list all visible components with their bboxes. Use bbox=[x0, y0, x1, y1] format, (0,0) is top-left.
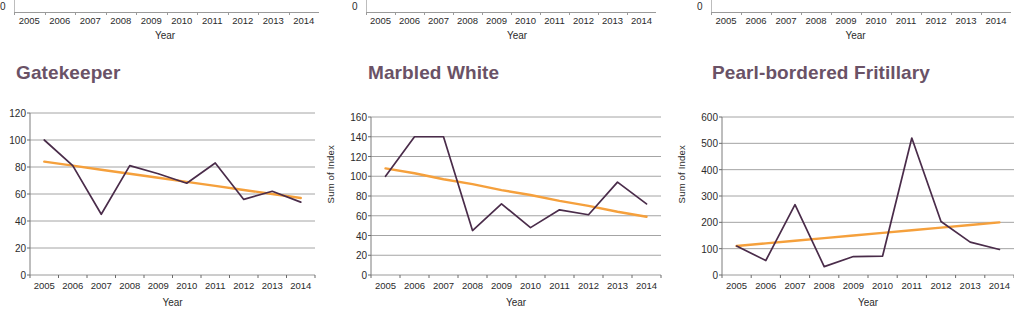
x-axis-tick bbox=[627, 12, 628, 15]
x-axis-tick-label: 2014 bbox=[290, 280, 311, 291]
x-axis-tick-label: 2005 bbox=[19, 15, 40, 26]
x-axis-tick bbox=[771, 12, 772, 15]
x-axis-tick bbox=[598, 12, 599, 15]
data-line bbox=[44, 140, 301, 214]
chart-pearl-bordered-fritillary: Pearl-bordered Fritillary Sum of Index Y… bbox=[690, 62, 1014, 322]
x-axis-tick bbox=[228, 12, 229, 15]
x-axis-tick-label: 2010 bbox=[872, 280, 893, 291]
y-axis-tick-label: 20 bbox=[0, 243, 26, 254]
x-axis-tick-label: 2010 bbox=[520, 280, 541, 291]
x-axis-tick-label: 2006 bbox=[755, 280, 776, 291]
y-zero-label: 0 bbox=[0, 2, 6, 12]
x-axis-tick-label: 2011 bbox=[549, 280, 569, 291]
x-axis-tick-label: 2014 bbox=[631, 15, 652, 26]
plot-area bbox=[30, 113, 315, 275]
x-axis-title: Year bbox=[506, 297, 526, 308]
data-line bbox=[386, 137, 647, 231]
y-axis-tick-label: 40 bbox=[0, 216, 26, 227]
y-axis-tick-label: 120 bbox=[0, 108, 26, 119]
x-axis-tick-label: 2008 bbox=[457, 15, 478, 26]
x-axis-tick-label: 2009 bbox=[491, 280, 512, 291]
x-axis-tick-label: 2014 bbox=[293, 15, 314, 26]
x-axis-tick bbox=[569, 12, 570, 15]
chart-canvas bbox=[30, 113, 315, 275]
x-axis-tick-label: 2008 bbox=[814, 280, 835, 291]
y-axis-tick-label: 80 bbox=[341, 191, 367, 202]
x-axis-tick-label: 2012 bbox=[233, 280, 254, 291]
x-axis-tick-label: 2005 bbox=[715, 15, 736, 26]
x-axis-tick-label: 2014 bbox=[636, 280, 657, 291]
x-axis-tick-label: 2011 bbox=[544, 15, 564, 26]
y-axis-tick-label: 60 bbox=[0, 189, 26, 200]
x-axis-tick bbox=[197, 12, 198, 15]
x-axis-tick bbox=[167, 12, 168, 15]
data-line bbox=[737, 138, 1000, 267]
x-axis-tick-label: 2013 bbox=[607, 280, 628, 291]
x-axis-tick-label: 2010 bbox=[865, 15, 886, 26]
x-axis-tick-label: 2013 bbox=[263, 15, 284, 26]
x-axis-tick-label: 2009 bbox=[486, 15, 507, 26]
x-axis-tick bbox=[289, 12, 290, 15]
x-axis-tick bbox=[106, 12, 107, 15]
y-axis-stub bbox=[366, 0, 367, 12]
y-axis-tick-label: 140 bbox=[341, 131, 367, 142]
x-axis-tick-label: 2011 bbox=[902, 280, 922, 291]
y-axis-tick-label: 40 bbox=[341, 230, 367, 241]
x-axis-tick-label: 2011 bbox=[202, 15, 222, 26]
x-axis-tick-label: 2012 bbox=[573, 15, 594, 26]
x-axis-tick bbox=[951, 12, 952, 15]
cropped-chart-axis-2: 0 Year 200520062007200820092010201120122… bbox=[352, 0, 682, 48]
x-axis-tick bbox=[75, 12, 76, 15]
y-axis-tick-label: 120 bbox=[341, 151, 367, 162]
x-axis-tick-label: 2008 bbox=[462, 280, 483, 291]
x-axis-tick-label: 2007 bbox=[784, 280, 805, 291]
x-axis-tick-label: 2008 bbox=[110, 15, 131, 26]
y-axis-tick-label: 0 bbox=[692, 270, 718, 281]
y-axis-tick-label: 20 bbox=[341, 250, 367, 261]
y-axis-tick-label: 400 bbox=[692, 164, 718, 175]
x-axis-tick bbox=[801, 12, 802, 15]
chart-title: Pearl-bordered Fritillary bbox=[712, 62, 930, 84]
x-axis-tick-label: 2008 bbox=[119, 280, 140, 291]
y-axis-tick-label: 100 bbox=[692, 243, 718, 254]
x-axis-tick-label: 2006 bbox=[399, 15, 420, 26]
x-axis-title: Year bbox=[697, 30, 1014, 41]
x-axis-tick-label: 2011 bbox=[205, 280, 225, 291]
y-axis-tick-label: 100 bbox=[0, 135, 26, 146]
x-axis-tick-label: 2005 bbox=[370, 15, 391, 26]
y-axis-tick-label: 160 bbox=[341, 112, 367, 123]
x-axis-tick-label: 2012 bbox=[930, 280, 951, 291]
cropped-chart-axis-1: 0 Year 200520062007200820092010201120122… bbox=[0, 0, 330, 48]
y-axis-tick-label: 80 bbox=[0, 162, 26, 173]
y-axis-tick-label: 300 bbox=[692, 191, 718, 202]
x-axis-tick-label: 2006 bbox=[62, 280, 83, 291]
x-axis-tick bbox=[891, 12, 892, 15]
x-axis-tick-label: 2014 bbox=[985, 15, 1006, 26]
x-axis-tick-label: 2012 bbox=[232, 15, 253, 26]
x-axis-tick bbox=[453, 12, 454, 15]
x-axis-tick-label: 2007 bbox=[433, 280, 454, 291]
x-axis-tick-label: 2010 bbox=[171, 15, 192, 26]
x-axis-tick bbox=[741, 12, 742, 15]
y-zero-label: 0 bbox=[352, 2, 358, 12]
x-axis-tick bbox=[482, 12, 483, 15]
x-axis-tick-label: 2009 bbox=[141, 15, 162, 26]
x-axis-tick-label: 2005 bbox=[726, 280, 747, 291]
cropped-chart-axis-3: 0 Year 200520062007200820092010201120122… bbox=[697, 0, 1014, 48]
y-zero-label: 0 bbox=[697, 2, 703, 12]
x-axis-title: Year bbox=[352, 30, 682, 41]
x-axis-tick-label: 2007 bbox=[91, 280, 112, 291]
x-axis-tick bbox=[136, 12, 137, 15]
x-axis-tick-label: 2010 bbox=[515, 15, 536, 26]
x-axis-tick-label: 2008 bbox=[805, 15, 826, 26]
y-axis-tick-label: 600 bbox=[692, 112, 718, 123]
y-axis-tick-label: 60 bbox=[341, 210, 367, 221]
y-axis-title: Sum of Index bbox=[676, 145, 687, 203]
x-axis-tick-label: 2014 bbox=[989, 280, 1010, 291]
y-axis-stub bbox=[711, 0, 712, 12]
x-axis-tick-label: 2012 bbox=[925, 15, 946, 26]
x-axis-tick-label: 2011 bbox=[896, 15, 916, 26]
x-axis-tick bbox=[831, 12, 832, 15]
x-axis-tick bbox=[45, 12, 46, 15]
x-axis-tick bbox=[14, 12, 15, 15]
